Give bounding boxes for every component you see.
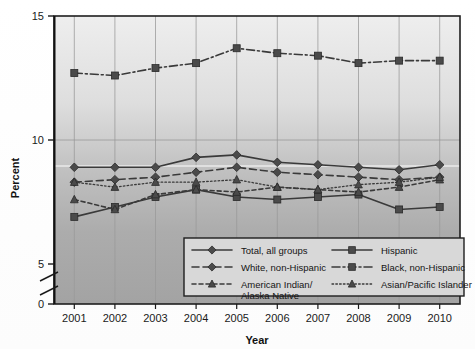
y-tick-label: 0 [38, 298, 44, 310]
x-tick-label: 2004 [184, 312, 208, 324]
data-point-square [111, 72, 118, 79]
chart-legend[interactable]: Total, all groupsHispanicWhite, non-Hisp… [184, 238, 472, 301]
legend-label: White, non-Hispanic [241, 262, 326, 273]
data-point-square [436, 203, 443, 210]
line-chart: 151050 200120022003200420052006200720082… [0, 0, 475, 349]
data-point-square [193, 60, 200, 67]
data-point-square [396, 57, 403, 64]
x-tick-label: 2010 [427, 312, 451, 324]
legend-item-white-non-hispanic[interactable]: White, non-Hispanic [192, 262, 326, 273]
x-tick-label: 2001 [62, 312, 86, 324]
data-point-square [355, 60, 362, 67]
data-point-square [349, 264, 356, 271]
legend-label: Total, all groups [241, 245, 308, 256]
legend-label-line2: Alaska Native [241, 290, 299, 301]
y-tick-label: 15 [32, 10, 44, 22]
x-tick-label: 2005 [224, 312, 248, 324]
y-axis-title: Percent [9, 157, 21, 198]
x-tick-label: 2003 [143, 312, 167, 324]
data-point-square [274, 196, 281, 203]
y-tick-label: 5 [38, 258, 44, 270]
x-axis-title: Year [245, 334, 269, 346]
data-point-square [233, 45, 240, 52]
x-tick-label: 2008 [346, 312, 370, 324]
x-tick-label: 2009 [387, 312, 411, 324]
data-point-square [314, 52, 321, 59]
data-point-square [314, 194, 321, 201]
data-point-square [436, 57, 443, 64]
chart-container: 151050 200120022003200420052006200720082… [0, 0, 475, 349]
data-point-square [396, 206, 403, 213]
data-point-square [71, 213, 78, 220]
legend-label: American Indian/ [241, 279, 313, 290]
x-tick-label: 2002 [103, 312, 127, 324]
data-point-square [349, 247, 356, 254]
data-point-square [71, 70, 78, 77]
data-point-square [152, 65, 159, 72]
y-tick-label: 10 [32, 134, 44, 146]
legend-label: Black, non-Hispanic [381, 262, 465, 273]
x-tick-label: 2006 [265, 312, 289, 324]
x-tick-label: 2007 [306, 312, 330, 324]
legend-label: Hispanic [381, 245, 418, 256]
legend-label: Asian/Pacific Islander [381, 279, 472, 290]
data-point-square [274, 50, 281, 57]
